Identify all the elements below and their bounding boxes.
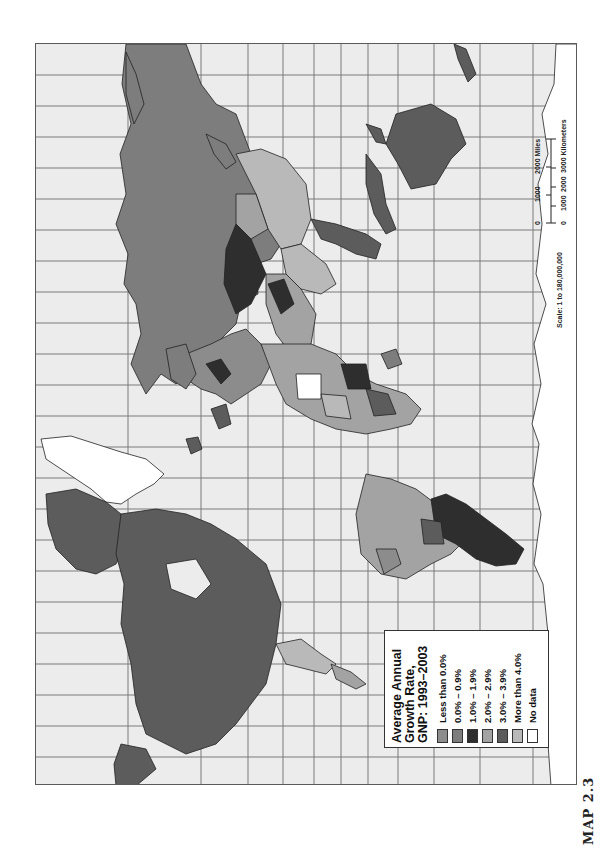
legend-swatch-1-1.9 [467,729,478,743]
legend: Average Annual Growth Rate, GNP: 1993–20… [384,630,549,748]
scale-km-3000: 3000 Kilometers [560,119,567,173]
legend-swatch-more-than-4 [512,729,523,743]
legend-item: 2.0% – 2.9% [480,637,495,743]
africa-light [321,394,351,419]
legend-label: 0.0% – 0.9% [452,669,463,723]
iceland [186,437,202,454]
legend-item: More than 4.0% [510,637,525,743]
central-america [331,664,366,689]
scale-bar: Scale: 1 to 180,000,000 0 1000 2000 Mile… [520,130,580,330]
legend-swatch-3-3.9 [497,729,508,743]
legend-swatch-0-0.9 [452,729,463,743]
map-number-label: MAP 2.3 [574,775,604,845]
legend-swatch-less-than-0 [437,729,448,743]
scale-miles-0: 0 [534,221,541,225]
africa-north-nodata [296,374,321,399]
scale-ratio: Scale: 1 to 180,000,000 [556,252,563,328]
legend-label: More than 4.0% [512,653,523,723]
indonesia [366,154,396,234]
legend-item: 3.0% – 3.9% [495,637,510,743]
madagascar [381,349,402,369]
legend-label: Less than 0.0% [437,654,448,723]
scale-km-2000: 2000 [560,176,567,192]
southeast-asia [311,219,381,259]
legend-label: 1.0% – 1.9% [467,669,478,723]
legend-item: No data [525,637,540,743]
map-number-caption: MAP 2.3 [570,775,600,845]
north-america [116,509,281,754]
new-zealand [454,44,476,82]
legend-title-line3: GNP: 1993–2003 [417,637,430,743]
legend-label: 3.0% – 3.9% [497,669,508,723]
legend-swatch-2-2.9 [482,729,493,743]
mexico [276,639,336,674]
legend-label: 2.0% – 2.9% [482,669,493,723]
scale-miles-1000: 1000 [534,186,541,202]
scale-miles-2000: 2000 Miles [534,139,541,174]
scale-line [544,130,558,225]
scale-km-0: 0 [560,221,567,225]
legend-item: 1.0% – 1.9% [465,637,480,743]
legend-item: Less than 0.0% [435,637,450,743]
legend-swatch-no-data [527,729,538,743]
legend-title: Average Annual Growth Rate, GNP: 1993–20… [391,637,430,743]
scale-km-1000: 1000 [560,195,567,211]
new-guinea [366,124,386,144]
brazil-south [421,519,444,544]
alaska [114,744,156,785]
uk [211,404,231,429]
legend-item: 0.0% – 0.9% [450,637,465,743]
legend-label: No data [527,688,538,723]
